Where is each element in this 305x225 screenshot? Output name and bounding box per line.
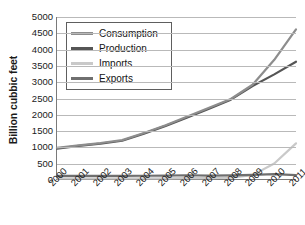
y-axis-tick-label: 4500 xyxy=(19,28,53,38)
legend-item-label: Production xyxy=(99,44,147,54)
y-axis-tick-label: 1000 xyxy=(19,142,53,152)
y-axis-tick-label: 3500 xyxy=(19,61,53,71)
legend-item-imports[interactable]: Imports xyxy=(71,56,167,71)
gridline xyxy=(57,131,296,132)
y-axis-tick-labels: 0500100015002000250030003500400045005000 xyxy=(17,0,53,225)
y-axis-tick-label: 500 xyxy=(19,159,53,169)
gridline xyxy=(57,82,296,83)
line-chart: Billion cubbic feet 05001000150020002500… xyxy=(0,0,305,225)
y-axis-tick-label: 5000 xyxy=(19,12,53,22)
gridline xyxy=(57,99,296,100)
gridline xyxy=(57,164,296,165)
y-axis-tick-label: 4000 xyxy=(19,45,53,55)
gridline xyxy=(57,66,296,67)
legend-item-label: Imports xyxy=(99,59,132,69)
y-axis-tick-label: 1500 xyxy=(19,126,53,136)
plot-area: ConsumptionProductionImportsExports xyxy=(56,17,296,180)
gridline xyxy=(57,33,296,34)
y-axis-tick-label: 2500 xyxy=(19,94,53,104)
chart-legend: ConsumptionProductionImportsExports xyxy=(66,22,172,90)
y-axis-tick-label: 3000 xyxy=(19,77,53,87)
x-axis-tick-labels: 2000200120022003200420052006200720082009… xyxy=(56,181,296,225)
gridline xyxy=(57,147,296,148)
gridline xyxy=(57,115,296,116)
legend-swatch-icon xyxy=(71,62,93,65)
gridline xyxy=(57,50,296,51)
legend-item-exports[interactable]: Exports xyxy=(71,71,167,86)
legend-swatch-icon xyxy=(71,77,93,80)
legend-item-production[interactable]: Production xyxy=(71,41,167,56)
gridline xyxy=(57,17,296,18)
y-axis-tick-label: 2000 xyxy=(19,110,53,120)
